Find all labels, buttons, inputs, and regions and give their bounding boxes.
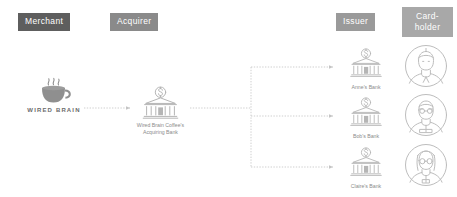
- node-acquirer: Wired Brain Coffee's Acquiring Bank: [133, 86, 188, 135]
- node-merchant: WIRED BRAIN: [26, 76, 82, 113]
- bank-dollar-icon: [338, 48, 394, 78]
- node-issuer-claire: Claire's Bank: [338, 147, 394, 189]
- acquirer-label: Wired Brain Coffee's Acquiring Bank: [133, 122, 188, 135]
- node-cardholder-claire: [404, 143, 448, 187]
- node-issuer-bob: Bob's Bank: [338, 97, 394, 139]
- diagram-canvas: Merchant Acquirer Issuer Card- holder: [0, 0, 457, 197]
- bank-dollar-icon: [133, 86, 188, 120]
- node-cardholder-bob: [404, 93, 448, 137]
- avatar-person-icon: [404, 44, 448, 88]
- merchant-wordmark: WIRED BRAIN: [26, 107, 82, 113]
- node-cardholder-anne: [404, 44, 448, 88]
- issuer-label: Anne's Bank: [338, 84, 394, 90]
- bank-dollar-icon: [338, 147, 394, 177]
- issuer-label: Claire's Bank: [338, 183, 394, 189]
- bank-dollar-icon: [338, 97, 394, 127]
- coffee-cup-icon: [26, 76, 82, 106]
- node-issuer-anne: Anne's Bank: [338, 48, 394, 90]
- issuer-label: Bob's Bank: [338, 133, 394, 139]
- avatar-person-icon: [404, 143, 448, 187]
- avatar-person-icon: [404, 93, 448, 137]
